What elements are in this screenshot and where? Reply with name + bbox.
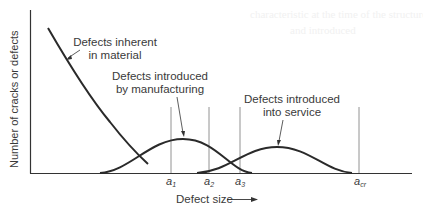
arrowhead-icon bbox=[66, 55, 72, 60]
annotation-inherent-line1: Defects inherent bbox=[73, 36, 158, 48]
curve-manufacturing-defects bbox=[100, 139, 252, 173]
annotation-service-line2: into service bbox=[263, 106, 321, 118]
annotation-manufacturing-arrow bbox=[177, 97, 183, 133]
marker-label-acr: acr bbox=[354, 175, 367, 188]
curve-service-defects bbox=[197, 147, 352, 173]
arrowhead-icon bbox=[277, 140, 281, 146]
annotation-inherent-line2: in material bbox=[88, 49, 141, 61]
marker-label-a2: a2 bbox=[204, 175, 214, 188]
arrowhead-icon bbox=[181, 131, 185, 137]
defect-size-diagram: Defects inherent in material Defects int… bbox=[0, 0, 423, 218]
x-axis-label: Defect size bbox=[176, 193, 233, 205]
annotation-service-line1: Defects introduced bbox=[244, 93, 340, 105]
marker-label-a1: a1 bbox=[166, 175, 176, 188]
marker-label-a3: a3 bbox=[235, 175, 245, 188]
y-axis-label: Number of cracks or defects bbox=[8, 30, 20, 168]
annotation-manufacturing-line1: Defects introduced bbox=[112, 70, 208, 82]
annotation-service-arrow bbox=[279, 120, 283, 141]
arrow-right-icon bbox=[251, 197, 258, 202]
annotation-manufacturing-line2: by manufacturing bbox=[116, 83, 204, 95]
